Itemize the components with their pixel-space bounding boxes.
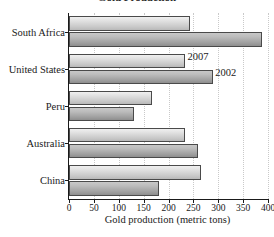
bar-china-2002 (69, 181, 159, 196)
category-tick (65, 69, 69, 70)
x-axis-tick-label: 250 (186, 203, 200, 213)
category-tick (65, 143, 69, 144)
category-label-united-states: United States (9, 63, 65, 74)
bar-australia-2007 (69, 128, 185, 143)
x-axis-tick-label: 400 (261, 203, 274, 213)
bar-china-2007 (69, 165, 201, 180)
x-axis-tick-label: 0 (67, 203, 72, 213)
x-axis-tick-label: 300 (211, 203, 225, 213)
plot-area: South AfricaUnited StatesPeruAustraliaCh… (68, 13, 268, 200)
x-axis-tick-label: 200 (161, 203, 175, 213)
x-axis-tick-label: 100 (112, 203, 126, 213)
bar-south-africa-2007 (69, 16, 190, 31)
category-label-china: China (40, 175, 65, 186)
bar-peru-2002 (69, 107, 134, 122)
gridline (268, 13, 269, 199)
x-axis-title: Gold production (metric tons) (68, 214, 267, 225)
chart-title: Gold Production (0, 0, 274, 3)
category-tick (65, 32, 69, 33)
category-label-south-africa: South Africa (12, 26, 65, 37)
category-tick (65, 106, 69, 107)
bar-united-states-2002 (69, 70, 213, 85)
gold-production-bar-chart: Gold Production South AfricaUnited State… (0, 0, 274, 237)
x-axis-tick-label: 350 (236, 203, 250, 213)
bar-south-africa-2002 (69, 32, 262, 47)
bar-peru-2007 (69, 91, 152, 106)
x-axis-tick-label: 50 (89, 203, 99, 213)
category-tick (65, 180, 69, 181)
category-label-australia: Australia (27, 138, 66, 149)
series-callout-2002: 2002 (215, 67, 236, 78)
series-callout-2007: 2007 (187, 51, 208, 62)
x-axis-tick-label: 150 (137, 203, 151, 213)
category-label-peru: Peru (46, 101, 65, 112)
bar-australia-2002 (69, 144, 198, 159)
bar-united-states-2007 (69, 54, 185, 69)
